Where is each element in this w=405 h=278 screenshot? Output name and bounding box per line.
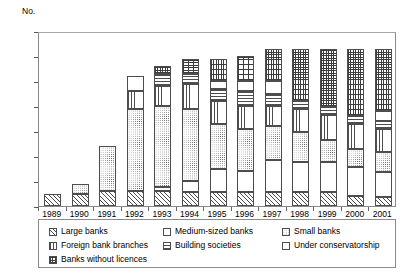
legend-item-medium-sized-banks[interactable]: Medium-sized banks [163, 227, 253, 236]
x-axis-tick-label: 1989 [42, 210, 61, 219]
legend-item-small-banks[interactable]: Small banks [282, 227, 340, 236]
bar-segment-medium-sized-banks [210, 169, 227, 193]
legend-item-label: Large banks [61, 227, 108, 236]
bar-segment-building-societies [320, 107, 337, 115]
bar-segment-banks-without-licences [237, 56, 254, 81]
x-axis-tick-mark [231, 207, 232, 211]
legend-item-under-conservatorship[interactable]: Under conservatorship [282, 241, 380, 250]
bar-segment-large-banks [182, 192, 199, 206]
bar-segment-building-societies [237, 91, 254, 106]
legend-item-label: Banks without licences [61, 255, 147, 264]
x-axis-tick-label: 1997 [263, 210, 282, 219]
bar-segment-building-societies [375, 121, 392, 129]
x-axis-tick-mark [286, 207, 287, 211]
legend-item-building-societies[interactable]: Building societies [163, 241, 241, 250]
bar-segment-banks-without-licences [292, 49, 309, 102]
bar-segment-large-banks [320, 192, 337, 206]
x-axis-tick-mark [203, 207, 204, 211]
bar-segment-large-banks [237, 192, 254, 206]
bar-segment-small-banks [210, 124, 227, 169]
bar-segment-medium-sized-banks [292, 162, 309, 192]
bar-segment-small-banks [292, 132, 309, 162]
x-axis-tick-label: 1995 [208, 210, 227, 219]
x-axis-tick-mark [341, 207, 342, 211]
bar-segment-under-conservatorship [127, 76, 144, 91]
bar-segment-large-banks [265, 192, 282, 206]
x-axis-tick-label: 1996 [235, 210, 254, 219]
bar-1996 [237, 31, 254, 206]
bar-segment-foreign-bank-branches [347, 124, 364, 149]
bar-segment-small-banks [127, 109, 144, 192]
bar-segment-foreign-bank-branches [127, 91, 144, 109]
bar-segment-large-banks [292, 192, 309, 206]
bar-segment-large-banks [347, 196, 364, 206]
bar-segment-foreign-bank-branches [292, 109, 309, 133]
legend-item-label: Under conservatorship [294, 241, 380, 250]
stacked-bar-chart: No. 706050403020100 19891990199119921993… [0, 0, 405, 278]
bar-segment-under-conservatorship [237, 81, 254, 91]
x-axis-tick-mark [258, 207, 259, 211]
bar-segment-banks-without-licences [347, 49, 364, 117]
legend-item-label: Medium-sized banks [175, 227, 253, 236]
bar-1993 [154, 31, 171, 206]
x-axis-tick-label: 1992 [125, 210, 144, 219]
swatch-diagonal-hatch-icon [49, 228, 57, 236]
x-axis-tick-mark [121, 207, 122, 211]
bar-segment-small-banks [320, 140, 337, 163]
bar-segment-building-societies [182, 74, 199, 84]
bar-segment-large-banks [99, 191, 116, 206]
bar-segment-under-conservatorship [375, 111, 392, 121]
swatch-light-hatch-icon [163, 228, 171, 236]
y-axis: 706050403020100 [0, 0, 38, 208]
x-axis-tick-label: 1991 [97, 210, 116, 219]
bar-segment-small-banks [72, 184, 89, 194]
bar-segment-banks-without-licences [210, 59, 227, 82]
x-axis-tick-mark [368, 207, 369, 211]
x-axis-tick-mark [38, 207, 39, 211]
bar-segment-foreign-bank-branches [237, 106, 254, 129]
bar-segment-medium-sized-banks [182, 181, 199, 192]
bar-segment-large-banks [44, 194, 61, 207]
bar-segment-foreign-bank-branches [182, 84, 199, 109]
swatch-plain-icon [282, 242, 290, 250]
bar-segment-banks-without-licences [182, 59, 199, 74]
bar-segment-large-banks [72, 194, 89, 207]
bar-segment-medium-sized-banks [154, 187, 171, 191]
x-axis-tick-label: 1993 [152, 210, 171, 219]
x-axis-tick-mark [93, 207, 94, 211]
bar-segment-small-banks [99, 146, 116, 191]
bar-segment-small-banks [265, 126, 282, 160]
bar-segment-medium-sized-banks [375, 172, 392, 197]
bar-segment-large-banks [127, 191, 144, 206]
x-axis-tick-label: 2001 [373, 210, 392, 219]
bar-segment-medium-sized-banks [347, 167, 364, 196]
legend-item-label: Foreign bank branches [61, 241, 148, 250]
bar-1992 [127, 31, 144, 206]
swatch-dots-icon [282, 228, 290, 236]
bar-1990 [72, 31, 89, 206]
plot-area [38, 32, 396, 207]
bar-segment-building-societies [347, 116, 364, 124]
legend-item-banks-without-licences[interactable]: Banks without licences [49, 255, 147, 264]
bar-segment-under-conservatorship [210, 81, 227, 89]
x-axis-tick-label: 1994 [180, 210, 199, 219]
bar-2001 [375, 31, 392, 206]
x-axis-tick-label: 1998 [290, 210, 309, 219]
legend-item-foreign-bank-branches[interactable]: Foreign bank branches [49, 241, 148, 250]
bar-segment-large-banks [154, 191, 171, 206]
bar-segment-medium-sized-banks [265, 160, 282, 193]
bar-segment-banks-without-licences [375, 49, 392, 112]
bar-segment-foreign-bank-branches [320, 115, 337, 140]
bar-segment-foreign-bank-branches [265, 106, 282, 126]
legend-item-large-banks[interactable]: Large banks [49, 227, 108, 236]
bar-segment-foreign-bank-branches [154, 86, 171, 106]
swatch-vertical-lines-icon [49, 242, 57, 250]
bar-1998 [292, 31, 309, 206]
x-axis-tick-mark [148, 207, 149, 211]
bar-segment-foreign-bank-branches [375, 129, 392, 153]
bar-segment-building-societies [154, 74, 171, 87]
chart-legend: Large banksMedium-sized banksSmall banks… [38, 219, 396, 268]
x-axis-tick-label: 1999 [318, 210, 337, 219]
bar-segment-small-banks [375, 152, 392, 172]
swatch-grid-icon [49, 256, 57, 264]
